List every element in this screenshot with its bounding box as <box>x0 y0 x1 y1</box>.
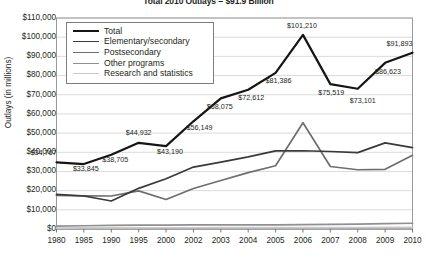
x-tick-label: 2002 <box>180 236 206 245</box>
legend-label: Postsecondary <box>104 48 161 57</box>
legend-label: Research and statistics <box>104 69 193 78</box>
x-tick-label: 1985 <box>71 236 97 245</box>
data-label: $81,386 <box>266 77 292 85</box>
data-label: $34,767 <box>31 149 57 157</box>
legend-label: Total <box>104 27 122 36</box>
legend-item-postsecondary[interactable]: Postsecondary <box>67 47 213 58</box>
x-tick-label: 2003 <box>208 236 234 245</box>
x-tick-label: 2008 <box>345 236 371 245</box>
data-label: $38,705 <box>102 156 128 164</box>
x-tick-label: 2010 <box>400 236 426 245</box>
data-label: $91,893 <box>387 40 413 48</box>
x-tick-label: 2009 <box>372 236 398 245</box>
series-line-elementary-secondary <box>57 143 413 201</box>
data-label: $56,149 <box>186 124 212 132</box>
data-label: $33,845 <box>73 165 99 173</box>
x-tick-label: 1995 <box>126 236 152 245</box>
data-label: $75,519 <box>318 89 344 97</box>
x-tick-label: 2004 <box>235 236 261 245</box>
legend-item-other-programs[interactable]: Other programs <box>67 58 213 69</box>
x-tick-label: 2006 <box>290 236 316 245</box>
x-tick-label: 2005 <box>263 236 289 245</box>
legend-swatch-icon <box>73 73 99 74</box>
legend-swatch-icon <box>73 30 99 32</box>
legend-swatch-icon <box>73 63 99 64</box>
x-tick-label: 2000 <box>153 236 179 245</box>
legend-swatch-icon <box>73 41 99 42</box>
legend-item-total[interactable]: Total <box>67 26 213 37</box>
data-label: $72,612 <box>238 94 264 102</box>
legend-label: Other programs <box>104 59 164 68</box>
legend-item-elementary-secondary[interactable]: Elementary/secondary <box>67 37 213 48</box>
data-label: $68,075 <box>207 103 233 111</box>
legend-item-research-and-statistics[interactable]: Research and statistics <box>67 68 213 79</box>
x-tick-label: 1980 <box>44 236 70 245</box>
x-tick-label: 1990 <box>98 236 124 245</box>
data-label: $86,623 <box>375 68 401 76</box>
data-label: $101,210 <box>287 22 317 30</box>
chart-legend: TotalElementary/secondaryPostsecondaryOt… <box>66 22 214 84</box>
data-label: $44,932 <box>126 129 152 137</box>
data-label: $73,101 <box>350 97 376 105</box>
data-label: $43,190 <box>157 148 183 156</box>
x-tick-label: 2007 <box>317 236 343 245</box>
series-line-research-and-statistics <box>57 227 413 228</box>
series-line-other-programs <box>57 223 413 226</box>
legend-swatch-icon <box>73 52 99 53</box>
legend-label: Elementary/secondary <box>104 37 190 46</box>
